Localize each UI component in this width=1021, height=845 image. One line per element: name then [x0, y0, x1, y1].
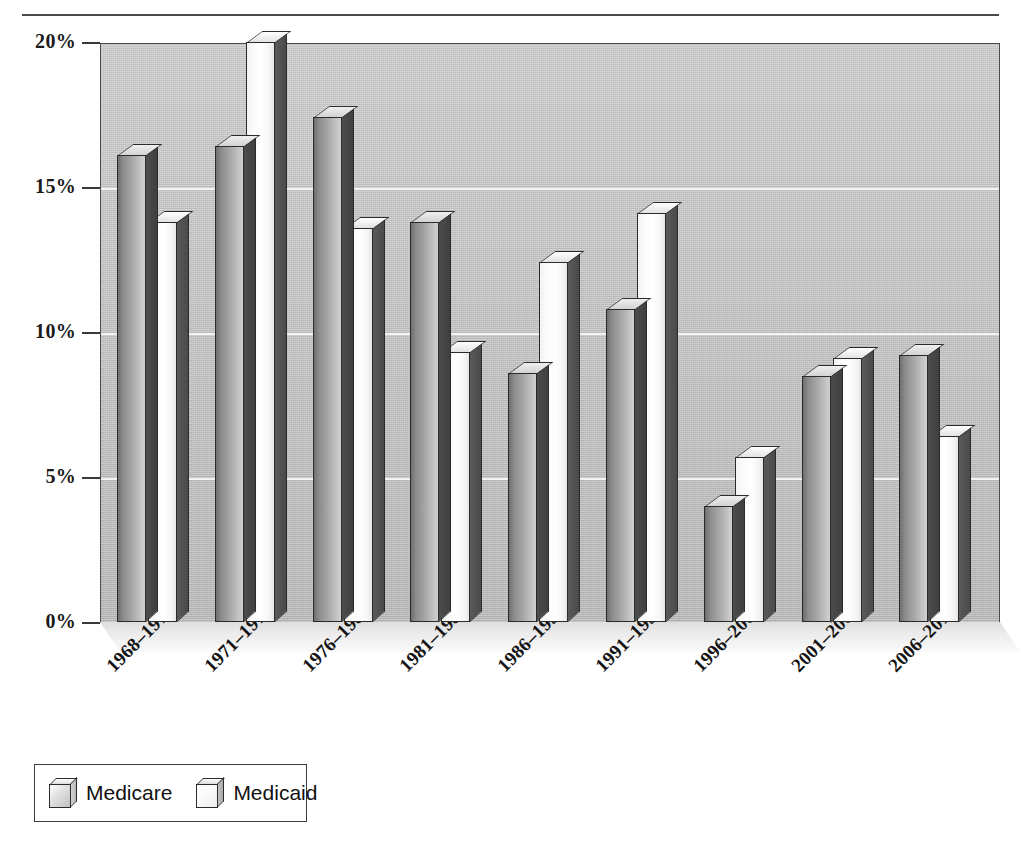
- y-tick-mark-15%: [82, 187, 100, 189]
- bar-front-face: [899, 355, 928, 622]
- top-divider-rule: [22, 14, 999, 16]
- legend-label-medicare: Medicare: [86, 781, 172, 805]
- y-tick-mark-5%: [82, 477, 100, 479]
- bar-side-face: [568, 252, 580, 622]
- y-tick-mark-0%: [82, 622, 100, 624]
- bar-side-face: [959, 426, 971, 622]
- bar-front-face: [704, 506, 733, 622]
- bar-front-face: [606, 309, 635, 622]
- bar-medicare-1996–2000[interactable]: [704, 506, 733, 622]
- bar-medicare-1971–1975[interactable]: [215, 146, 244, 622]
- bar-side-face: [831, 365, 843, 622]
- chart-figure: 0%5%10%15%20% 1968–19701971–19751976–198…: [0, 0, 1021, 845]
- bar-front-face: [410, 222, 439, 622]
- bar-front-face: [117, 155, 146, 622]
- y-tick-mark-10%: [82, 332, 100, 334]
- bar-front-face: [802, 376, 831, 623]
- bar-side-face: [439, 211, 451, 622]
- bar-side-face: [928, 344, 940, 622]
- bar-side-face: [764, 446, 776, 622]
- bar-side-face: [635, 298, 647, 622]
- bar-side-face: [275, 31, 287, 622]
- bar-front-face: [215, 146, 244, 622]
- bar-side-face: [146, 144, 158, 622]
- bar-medicare-1976–1980[interactable]: [313, 117, 342, 622]
- bar-side-face: [244, 136, 256, 622]
- bar-medicare-1968–1970[interactable]: [117, 155, 146, 622]
- y-tick-label-5%: 5%: [14, 465, 76, 488]
- bar-side-face: [862, 347, 874, 622]
- bar-side-face: [177, 211, 189, 622]
- y-tick-label-0%: 0%: [14, 610, 76, 633]
- bar-side-face: [470, 342, 482, 622]
- chart-legend: Medicare Medicaid: [34, 764, 307, 822]
- bar-medicare-2001–2005[interactable]: [802, 376, 831, 623]
- y-tick-mark-20%: [82, 42, 100, 44]
- cube-gray-icon: [49, 778, 77, 808]
- bar-medicare-1981–1985[interactable]: [410, 222, 439, 622]
- legend-item-medicaid[interactable]: Medicaid: [196, 778, 317, 808]
- y-tick-label-20%: 20%: [14, 30, 76, 53]
- figure-caption: [56, 833, 956, 845]
- bar-front-face: [508, 373, 537, 622]
- bar-medicare-1991–1995[interactable]: [606, 309, 635, 622]
- bar-medicare-1986–1990[interactable]: [508, 373, 537, 622]
- y-tick-label-10%: 10%: [14, 320, 76, 343]
- y-tick-label-15%: 15%: [14, 175, 76, 198]
- bar-medicare-2006–2010[interactable]: [899, 355, 928, 622]
- bar-side-face: [373, 217, 385, 622]
- plot-area: [100, 43, 1000, 623]
- cube-white-icon: [196, 778, 224, 808]
- bar-side-face: [537, 362, 549, 622]
- bar-side-face: [666, 202, 678, 622]
- legend-label-medicaid: Medicaid: [233, 781, 317, 805]
- bar-side-face: [733, 495, 745, 622]
- legend-item-medicare[interactable]: Medicare: [49, 778, 172, 808]
- bar-side-face: [342, 107, 354, 622]
- bar-front-face: [313, 117, 342, 622]
